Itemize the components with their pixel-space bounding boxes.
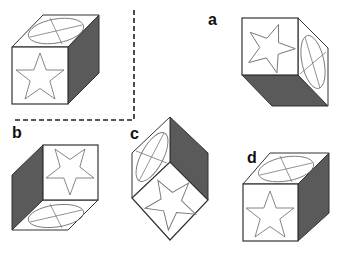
- diagram-canvas: a b c d: [0, 0, 341, 256]
- option-a-cube: [240, 16, 329, 106]
- option-label-d: d: [247, 150, 257, 166]
- option-label-c: c: [130, 126, 139, 142]
- option-label-b: b: [12, 125, 22, 141]
- cube-figure: [0, 0, 341, 256]
- option-b-cube: [12, 145, 98, 231]
- option-label-a: a: [208, 12, 217, 28]
- reference-cube: [12, 14, 99, 104]
- option-c-cube: [130, 117, 208, 240]
